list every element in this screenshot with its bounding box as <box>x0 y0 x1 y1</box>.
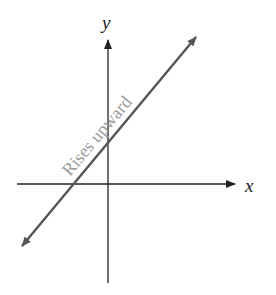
y-axis-label: y <box>100 12 111 33</box>
coordinate-plane: y x Rises upward <box>0 0 276 295</box>
graph-canvas: y x Rises upward <box>0 0 276 295</box>
x-axis-label: x <box>244 175 254 196</box>
rising-line <box>22 37 196 246</box>
line-label: Rises upward <box>58 92 136 180</box>
